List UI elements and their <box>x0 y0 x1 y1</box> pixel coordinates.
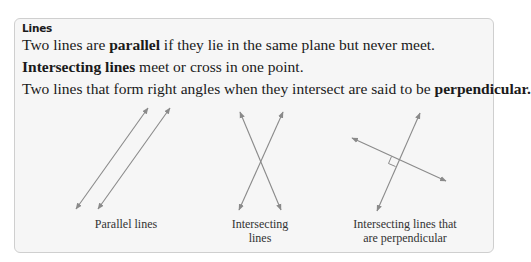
caption-line: lines <box>215 231 305 245</box>
caption-perpendicular: Intersecting lines that are perpendicula… <box>335 217 475 245</box>
caption-line: Parallel lines <box>66 217 186 231</box>
parallel-line-2 <box>98 108 170 209</box>
caption-parallel: Parallel lines <box>66 217 186 231</box>
caption-intersecting: Intersecting lines <box>215 217 305 245</box>
caption-line: Intersecting <box>215 217 305 231</box>
parallel-line-1 <box>76 108 148 209</box>
caption-line: are perpendicular <box>335 231 475 245</box>
perpendicular-line-2 <box>377 113 420 211</box>
caption-line: Intersecting lines that <box>335 217 475 231</box>
